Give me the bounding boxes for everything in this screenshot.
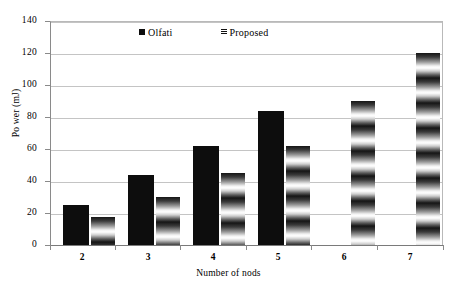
ytick-mark-20 bbox=[45, 213, 50, 214]
bar-proposed-6 bbox=[351, 101, 375, 245]
gridline-100 bbox=[51, 86, 442, 87]
xtick-label-4: 4 bbox=[183, 252, 243, 262]
ytick-mark-60 bbox=[45, 149, 50, 150]
bar-olfati-2 bbox=[63, 205, 89, 245]
bar-proposed-4 bbox=[221, 173, 245, 245]
striped-square-marker-icon bbox=[221, 29, 227, 35]
xtick-label-7: 7 bbox=[380, 252, 440, 262]
xtick-mark-end bbox=[443, 245, 444, 250]
xtick-mark-start bbox=[50, 245, 51, 250]
xtick-label-5: 5 bbox=[248, 252, 308, 262]
bar-proposed-2 bbox=[91, 217, 115, 245]
ytick-mark-120 bbox=[45, 53, 50, 54]
gridline-40 bbox=[51, 182, 442, 183]
chart-legend: Olfati Proposed bbox=[139, 25, 268, 39]
ytick-label-120: 120 bbox=[5, 48, 37, 58]
legend-item-olfati: Olfati bbox=[139, 27, 173, 38]
legend-item-proposed: Proposed bbox=[221, 27, 269, 38]
xtick-mark-4 bbox=[311, 245, 312, 250]
bar-olfati-4 bbox=[193, 146, 219, 245]
gridline-140 bbox=[51, 22, 442, 23]
ytick-mark-40 bbox=[45, 181, 50, 182]
bar-olfati-5 bbox=[258, 111, 284, 245]
plot-area bbox=[50, 21, 443, 245]
ytick-label-40: 40 bbox=[5, 176, 37, 186]
gridline-20 bbox=[51, 214, 442, 215]
ytick-mark-140 bbox=[45, 21, 50, 22]
bar-chart: 140 120 100 80 60 40 20 0 Po wer (mJ) 2 … bbox=[0, 0, 457, 293]
ytick-label-140: 140 bbox=[5, 16, 37, 26]
ytick-mark-100 bbox=[45, 85, 50, 86]
ytick-label-0: 0 bbox=[5, 240, 37, 250]
y-axis-title: Po wer (mJ) bbox=[11, 53, 21, 173]
solid-square-marker-icon bbox=[139, 29, 145, 35]
ytick-mark-80 bbox=[45, 117, 50, 118]
xtick-label-3: 3 bbox=[118, 252, 178, 262]
xtick-mark-2 bbox=[180, 245, 181, 250]
xtick-mark-1 bbox=[115, 245, 116, 250]
ytick-label-60: 60 bbox=[5, 144, 37, 154]
x-axis-title: Number of nods bbox=[0, 268, 457, 278]
bar-olfati-3 bbox=[128, 175, 154, 245]
ytick-label-100: 100 bbox=[5, 80, 37, 90]
legend-label-olfati: Olfati bbox=[148, 27, 173, 38]
gridline-80 bbox=[51, 118, 442, 119]
x-axis-line bbox=[50, 245, 444, 246]
ytick-label-80: 80 bbox=[5, 112, 37, 122]
gridline-120 bbox=[51, 54, 442, 55]
bar-proposed-5 bbox=[286, 146, 310, 245]
ytick-label-20: 20 bbox=[5, 208, 37, 218]
xtick-mark-3 bbox=[246, 245, 247, 250]
legend-label-proposed: Proposed bbox=[230, 27, 269, 38]
xtick-label-6: 6 bbox=[314, 252, 374, 262]
xtick-label-2: 2 bbox=[52, 252, 112, 262]
bar-proposed-7 bbox=[416, 53, 440, 245]
bar-proposed-3 bbox=[156, 197, 180, 245]
gridline-60 bbox=[51, 150, 442, 151]
xtick-mark-5 bbox=[377, 245, 378, 250]
